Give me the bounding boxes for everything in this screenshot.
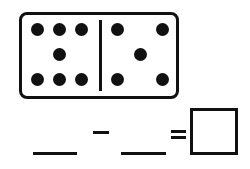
- pip: [53, 73, 66, 86]
- answer-box[interactable]: [190, 108, 238, 155]
- answer-blank-1[interactable]: [33, 152, 77, 155]
- pip: [75, 23, 88, 36]
- minus-sign: [93, 131, 109, 134]
- pip: [53, 48, 66, 61]
- equals-sign-top: [171, 130, 186, 133]
- pip: [31, 23, 44, 36]
- pip: [156, 23, 169, 36]
- answer-blank-2[interactable]: [121, 152, 166, 155]
- pip: [134, 48, 147, 61]
- pip: [111, 23, 124, 36]
- pip: [156, 73, 169, 86]
- domino-divider: [99, 20, 102, 91]
- pip: [31, 73, 44, 86]
- pip: [111, 73, 124, 86]
- pip: [53, 23, 66, 36]
- pip: [75, 73, 88, 86]
- equals-sign-bottom: [171, 136, 186, 139]
